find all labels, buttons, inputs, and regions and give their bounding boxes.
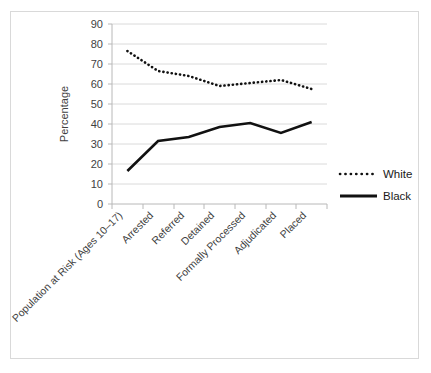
chart-legend: White Black	[340, 168, 412, 202]
series-line-white	[127, 51, 311, 89]
y-tick-label-20: 20	[91, 158, 103, 170]
y-tick-label-30: 30	[91, 138, 103, 150]
x-category-label-0: Population at Risk (Ages 10–17)	[9, 209, 124, 324]
chart-figure: 90 80 70 60 50 40 30 20 10 0 Percentage …	[0, 0, 431, 373]
x-category-label-6: Placed	[277, 209, 308, 240]
y-tick-label-40: 40	[91, 118, 103, 130]
y-tick-label-0: 0	[97, 198, 103, 210]
line-chart: 90 80 70 60 50 40 30 20 10 0 Percentage …	[0, 0, 431, 373]
gridlines	[112, 24, 327, 184]
legend-label-white: White	[383, 168, 412, 180]
y-tick-label-10: 10	[91, 178, 103, 190]
y-tick-label-50: 50	[91, 98, 103, 110]
axes	[112, 24, 327, 204]
y-tick-label-70: 70	[91, 58, 103, 70]
y-tick-label-90: 90	[91, 18, 103, 30]
y-tickmarks	[108, 24, 112, 204]
y-axis-title: Percentage	[58, 86, 70, 142]
x-category-labels: Population at Risk (Ages 10–17) Arrested…	[9, 209, 308, 324]
y-tick-labels: 90 80 70 60 50 40 30 20 10 0	[91, 18, 103, 210]
y-tick-label-80: 80	[91, 38, 103, 50]
x-tickmarks	[112, 204, 327, 209]
y-tick-label-60: 60	[91, 78, 103, 90]
legend-label-black: Black	[383, 190, 411, 202]
